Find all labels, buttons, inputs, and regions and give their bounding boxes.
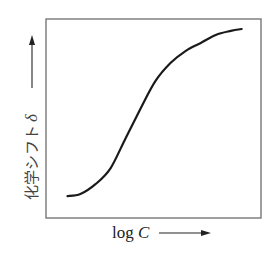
y-axis-label-group: 化学シフトδ: [22, 113, 41, 200]
y-axis-arrow-head: [29, 35, 35, 45]
chart: 化学シフトδ log C: [0, 0, 278, 256]
plot-frame: [46, 19, 261, 218]
x-axis-label-variable: C: [138, 223, 150, 242]
x-axis-label-text: log: [112, 223, 138, 242]
y-axis-label-variable: δ: [22, 113, 41, 122]
series-line-chemical-shift: [68, 29, 242, 196]
x-axis-arrow-head: [201, 230, 211, 236]
x-axis-label: log C: [112, 223, 150, 242]
y-axis-label-text: 化学シフト: [23, 125, 41, 200]
y-axis-arrow: [29, 35, 35, 88]
x-axis-arrow: [159, 230, 211, 236]
y-axis-label: 化学シフトδ: [22, 113, 41, 200]
